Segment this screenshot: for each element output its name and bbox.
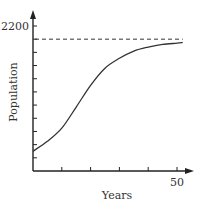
x-axis-arrow-icon — [185, 168, 194, 174]
y-axis-arrow-icon — [30, 10, 36, 19]
population-chart: 2200 50 Years Population — [0, 0, 203, 210]
population-curve — [33, 42, 183, 151]
axes — [30, 10, 194, 174]
y-axis-label: Population — [7, 62, 20, 121]
y-tick-label-2200: 2200 — [1, 20, 29, 33]
x-tick-label-50: 50 — [170, 176, 184, 189]
x-axis-label: Years — [101, 189, 133, 202]
